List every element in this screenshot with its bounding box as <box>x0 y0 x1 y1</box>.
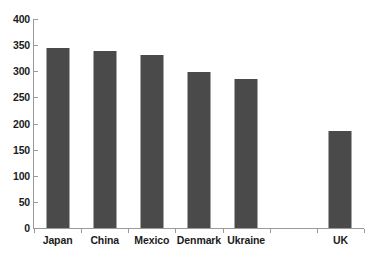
bar[interactable] <box>46 48 69 228</box>
y-axis-tick-label: 400 <box>2 14 30 24</box>
x-axis-tick-mark <box>364 229 365 233</box>
bar[interactable] <box>140 55 163 228</box>
bar-slot <box>175 19 222 228</box>
x-axis-category-label: China <box>81 234 128 247</box>
bar-slot <box>223 19 270 228</box>
y-axis-tick-label: 300 <box>2 66 30 76</box>
y-axis-tick-mark <box>34 202 38 203</box>
bar[interactable] <box>235 79 258 228</box>
bar-slot <box>317 19 364 228</box>
y-axis-tick-mark <box>34 45 38 46</box>
y-axis-tick-label: 150 <box>2 145 30 155</box>
y-axis-tick-mark <box>34 97 38 98</box>
bar-slot <box>34 19 81 228</box>
x-axis-category-label: Denmark <box>175 234 222 247</box>
y-axis-tick-label: 250 <box>2 92 30 102</box>
y-axis-tick-mark <box>34 71 38 72</box>
x-axis-category-label: UK <box>317 234 364 247</box>
bar-slot <box>128 19 175 228</box>
x-axis-tick-mark <box>270 229 271 233</box>
y-axis-tick-label: 200 <box>2 119 30 129</box>
y-axis-tick-label: 50 <box>2 197 30 207</box>
x-axis-tick-mark <box>128 229 129 233</box>
bar-slot <box>81 19 128 228</box>
bar-slot <box>270 19 317 228</box>
x-axis-category-label: Ukraine <box>223 234 270 247</box>
y-axis-tick-mark <box>34 19 38 20</box>
y-axis-tick-label: 350 <box>2 40 30 50</box>
y-axis-tick-mark <box>34 124 38 125</box>
x-axis-tick-mark <box>317 229 318 233</box>
x-axis-tick-mark <box>175 229 176 233</box>
bar[interactable] <box>329 131 352 228</box>
x-axis-tick-mark <box>81 229 82 233</box>
x-axis-category-label: Japan <box>34 234 81 247</box>
y-axis-tick-mark <box>34 150 38 151</box>
y-axis-tick-label: 100 <box>2 171 30 181</box>
x-axis-tick-mark <box>223 229 224 233</box>
y-axis-tick-labels: 050100150200250300350400 <box>0 0 30 255</box>
x-axis-tick-mark <box>34 229 35 233</box>
x-axis-line <box>33 228 364 229</box>
x-axis-category-label: Mexico <box>128 234 175 247</box>
x-axis-category-labels: JapanChinaMexicoDenmarkUkraineUK <box>34 234 364 252</box>
bar[interactable] <box>93 51 116 228</box>
plot-area <box>34 19 364 228</box>
y-axis-tick-label: 0 <box>2 223 30 233</box>
y-axis-tick-mark <box>34 176 38 177</box>
bar-chart: 050100150200250300350400 JapanChinaMexic… <box>0 0 369 255</box>
bar[interactable] <box>187 72 210 228</box>
